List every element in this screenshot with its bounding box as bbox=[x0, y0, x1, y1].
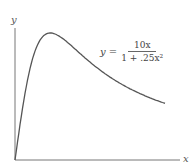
x-axis-label: x bbox=[183, 153, 189, 164]
equation-numerator: 10x bbox=[128, 40, 157, 52]
equation-lhs: y = bbox=[100, 46, 117, 57]
chart-canvas bbox=[0, 0, 196, 166]
equation-denominator: 1 + .25x² bbox=[121, 52, 163, 63]
y-axis-label: y bbox=[11, 14, 17, 25]
equation-fraction: 10x 1 + .25x² bbox=[121, 40, 163, 63]
equation-annotation: y = 10x 1 + .25x² bbox=[100, 40, 163, 63]
